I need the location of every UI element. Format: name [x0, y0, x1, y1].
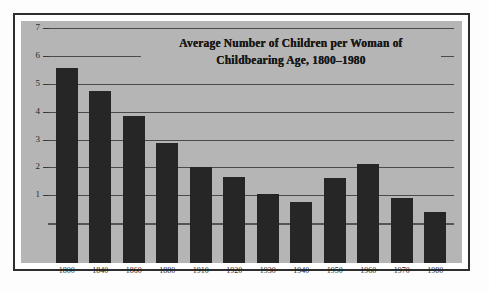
- bar: [156, 143, 178, 263]
- x-axis-label: 1860: [126, 267, 142, 275]
- x-axis-label: 1940: [293, 267, 309, 275]
- y-tick-mark-3: [43, 140, 49, 141]
- bar: [223, 177, 245, 263]
- bar: [324, 178, 346, 263]
- x-axis-label: 1920: [226, 267, 242, 275]
- chart-title-line-2: Childbearing Age, 1800–1980: [141, 52, 441, 69]
- y-axis-label: 6: [36, 51, 41, 60]
- bar-group: 1980: [419, 61, 452, 263]
- plot-area: 1234567 18001840186018801910192019301940…: [21, 21, 462, 263]
- bar-group: 1950: [318, 61, 351, 263]
- chart-title: Average Number of Children per Woman of …: [141, 35, 441, 69]
- y-axis-label: 1: [36, 190, 41, 199]
- bar: [89, 91, 111, 263]
- y-tick-mark-2: [43, 167, 49, 168]
- y-tick-mark-5: [43, 84, 49, 85]
- bar-group: 1930: [251, 61, 284, 263]
- bar-group: 1860: [117, 61, 150, 263]
- x-axis-label: 1980: [427, 267, 443, 275]
- bar: [56, 68, 78, 263]
- bar-group: 1910: [184, 61, 217, 263]
- y-axis-label: 3: [36, 135, 41, 144]
- figure-mat: 1234567 18001840186018801910192019301940…: [21, 21, 462, 263]
- bar-group: 1970: [385, 61, 418, 263]
- bar: [190, 167, 212, 263]
- bar-group: 1960: [352, 61, 385, 263]
- y-tick-mark-7: [43, 28, 49, 29]
- bar: [257, 194, 279, 264]
- bar-group: 1800: [50, 61, 83, 263]
- bar: [123, 116, 145, 263]
- x-axis-label: 1960: [360, 267, 376, 275]
- y-axis-label: 4: [36, 107, 41, 116]
- y-tick-mark-4: [43, 112, 49, 113]
- plot-canvas: 1234567 18001840186018801910192019301940…: [21, 21, 462, 263]
- bar-group: 1920: [218, 61, 251, 263]
- y-axis-label: 7: [36, 23, 41, 32]
- chart-figure: 1234567 18001840186018801910192019301940…: [0, 0, 489, 291]
- figure-frame: 1234567 18001840186018801910192019301940…: [13, 13, 470, 271]
- x-axis-label: 1910: [193, 267, 209, 275]
- bar-group: 1940: [285, 61, 318, 263]
- x-axis-label: 1950: [327, 267, 343, 275]
- bar: [290, 202, 312, 263]
- y-tick-mark-6: [43, 56, 49, 57]
- x-axis-label: 1840: [92, 267, 108, 275]
- y-tick-mark-1: [43, 195, 49, 196]
- x-axis-label: 1930: [260, 267, 276, 275]
- x-axis-label: 1880: [159, 267, 175, 275]
- chart-title-line-1: Average Number of Children per Woman of: [141, 35, 441, 52]
- bar-group: 1880: [151, 61, 184, 263]
- bar: [391, 198, 413, 263]
- bar: [424, 212, 446, 263]
- bar: [357, 164, 379, 263]
- y-axis-label: 5: [36, 79, 41, 88]
- y-axis-label: 2: [36, 162, 41, 171]
- bar-group: 1840: [83, 61, 116, 263]
- x-axis-label: 1800: [59, 267, 75, 275]
- x-axis-label: 1970: [394, 267, 410, 275]
